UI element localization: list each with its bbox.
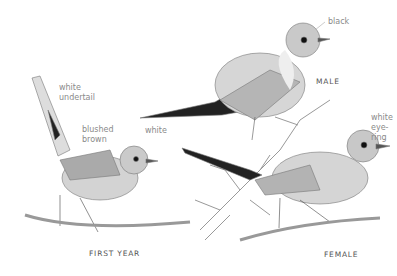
caption-male: MALE	[316, 77, 340, 86]
label-white-eye-ring: white eye-ring	[371, 113, 397, 143]
branch-female	[240, 218, 380, 240]
label-black: black	[328, 17, 349, 27]
branch-first-year	[25, 215, 190, 226]
label-white: white	[145, 126, 167, 136]
label-line: white	[59, 83, 95, 93]
caption-first-year: FIRST YEAR	[89, 249, 140, 258]
label-white-undertail: white undertail	[59, 83, 95, 103]
caption-female: FEMALE	[324, 250, 358, 259]
illustration	[0, 0, 397, 276]
first-year-bird	[32, 76, 158, 232]
label-line: brown	[82, 135, 114, 145]
label-line: eye-ring	[371, 123, 397, 143]
female-bird	[182, 130, 390, 228]
label-line: undertail	[59, 93, 95, 103]
label-line: blushed	[82, 125, 114, 135]
label-blushed-brown: blushed brown	[82, 125, 114, 145]
label-line: white	[371, 113, 397, 123]
male-bird	[140, 23, 330, 140]
